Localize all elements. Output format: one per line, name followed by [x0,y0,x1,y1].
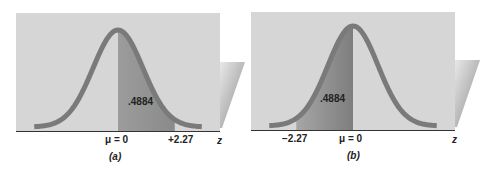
panel-b-caption: (b) [347,150,360,161]
normal-curve-diagram: .4884 μ = 0 +2.27 z (a) .4884 μ = 0 −2.2… [0,0,492,173]
panel-b-side-shadow [455,60,480,127]
panel-a-z-axis-label: z [216,135,222,146]
panel-b-area-label: .4884 [320,93,345,104]
panel-a-area-label: .4884 [128,96,153,107]
panel-a-side-shadow [220,62,245,128]
panel-b-mean-label: μ = 0 [339,133,363,144]
panel-a-mean-label: μ = 0 [105,134,129,145]
panel-a-caption: (a) [109,151,122,162]
panel-b: .4884 μ = 0 −2.27 z (b) [251,12,480,161]
panel-a: .4884 μ = 0 +2.27 z (a) [16,13,245,162]
panel-a-z-value-label: +2.27 [168,134,194,145]
panel-b-z-axis-label: z [451,134,457,145]
panel-b-z-value-label: −2.27 [282,133,308,144]
